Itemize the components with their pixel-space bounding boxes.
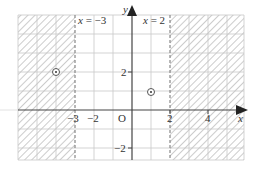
coordinate-plane: x = −3 x = 2 y x O −3 −2 2 4 2 −2 [0, 0, 258, 176]
shaded-region-right [170, 15, 244, 160]
x-axis-label: x [237, 112, 243, 124]
equation-label-x-neg3: x = −3 [77, 14, 107, 26]
origin-label: O [118, 112, 126, 124]
x-tick-label-neg2: −2 [87, 112, 99, 124]
y-axis-label: y [122, 3, 128, 15]
x-tick-label-neg3: −3 [67, 112, 79, 124]
y-tick-label-2: 2 [121, 66, 127, 78]
x-tick-label-2: 2 [167, 112, 173, 124]
y-axis-arrow-icon [127, 5, 137, 16]
equation-label-x-2: x = 2 [142, 14, 165, 26]
x-tick-label-4: 4 [205, 112, 211, 124]
point-marker-right [148, 89, 155, 96]
y-tick-label-neg2: −2 [114, 142, 126, 154]
shaded-region-left [18, 15, 75, 160]
point-marker-left [53, 69, 60, 76]
